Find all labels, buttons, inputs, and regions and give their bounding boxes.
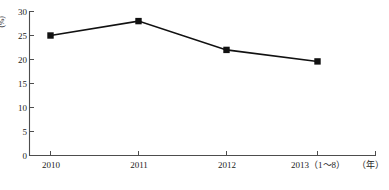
data-point-marker xyxy=(223,47,229,53)
x-tick-label-2013: 2013（1～8） xyxy=(280,160,356,170)
x-tick-label-2010: 2010 xyxy=(32,160,70,170)
data-point-markers xyxy=(47,18,320,65)
x-tick-label-2011: 2011 xyxy=(120,160,158,170)
data-point-marker xyxy=(47,32,53,38)
line-chart-figure: (%) 30 25 20 15 10 5 0 xyxy=(0,0,389,190)
x-axis-ticks xyxy=(51,151,376,156)
x-axis-unit-label: （年） xyxy=(357,160,384,170)
y-axis-ticks xyxy=(30,12,35,132)
data-series-line xyxy=(51,21,318,61)
x-tick-label-2012: 2012 xyxy=(208,160,246,170)
data-point-marker xyxy=(135,18,141,24)
data-point-marker xyxy=(314,58,320,64)
